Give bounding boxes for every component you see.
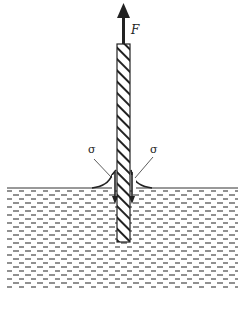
force-arrow-head [117,3,130,18]
sigma-label-right: σ [150,143,158,156]
force-label: F [131,23,139,37]
diagram-canvas [0,0,244,310]
sigma-leader-left [94,159,112,178]
rod [117,44,130,242]
sigma-label-left: σ [88,143,96,156]
sigma-leader-right [135,157,153,178]
